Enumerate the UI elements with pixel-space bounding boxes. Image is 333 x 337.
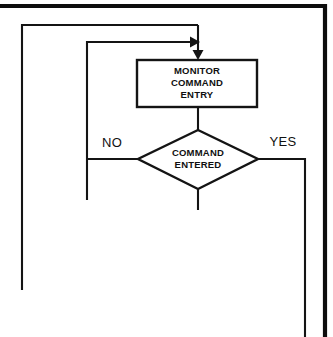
decision-line-1: COMMAND	[172, 147, 224, 158]
flowchart-canvas: MONITOR COMMAND ENTRY COMMAND ENTERED NO…	[0, 0, 333, 337]
process-box-line-1: MONITOR	[174, 65, 220, 76]
node-monitor-command-entry: MONITOR COMMAND ENTRY	[137, 60, 257, 107]
process-box-line-3: ENTRY	[181, 89, 214, 100]
node-command-entered: COMMAND ENTERED	[138, 130, 258, 189]
yes-label: YES	[270, 134, 297, 149]
yes-branch-path	[257, 159, 305, 337]
decision-line-2: ENTERED	[175, 159, 222, 170]
connector-decision-yes-branch	[257, 159, 305, 337]
arrow-down-icon	[193, 50, 204, 60]
flowchart-page: MONITOR COMMAND ENTRY COMMAND ENTERED NO…	[0, 0, 333, 337]
process-box-line-2: COMMAND	[171, 77, 223, 88]
no-label: NO	[102, 135, 122, 150]
